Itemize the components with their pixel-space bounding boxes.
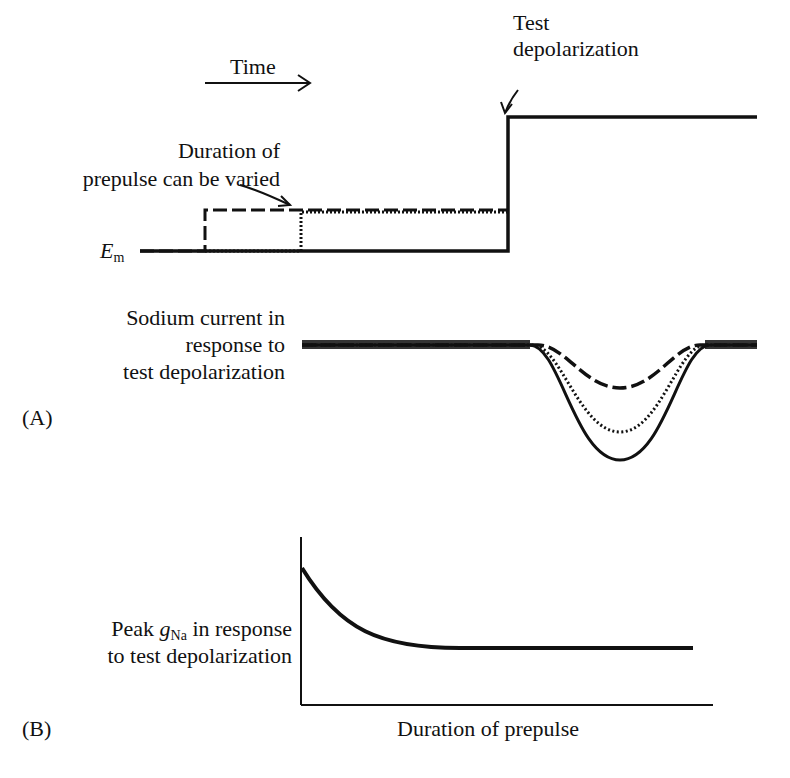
current-label-line3: test depolarization — [123, 359, 285, 385]
ylabel-line2: to test depolarization — [108, 643, 293, 669]
panel-a-label: (A) — [22, 405, 53, 431]
current-trace-solid — [302, 345, 757, 460]
test-label-line1: Test — [513, 10, 549, 36]
duration-label-line2: prepulse can be varied — [83, 166, 280, 192]
duration-label-line1: Duration of — [178, 138, 280, 164]
panel-b-axes — [301, 537, 713, 705]
em-label: Em — [100, 238, 124, 271]
test-arrow-icon — [501, 90, 518, 113]
current-label-line1: Sodium current in — [126, 305, 285, 331]
panel-b-label: (B) — [22, 716, 51, 742]
current-trace-dotted — [302, 345, 757, 432]
test-label-line2: depolarization — [513, 36, 639, 62]
voltage-trace-dashed — [140, 210, 508, 251]
voltage-trace-dotted — [205, 212, 508, 251]
current-label-line2: response to — [185, 332, 285, 358]
current-baseline-end — [705, 340, 757, 349]
current-baseline — [302, 340, 530, 349]
peak-gna-curve — [302, 568, 693, 648]
xlabel: Duration of prepulse — [397, 716, 579, 742]
time-label: Time — [230, 54, 276, 80]
